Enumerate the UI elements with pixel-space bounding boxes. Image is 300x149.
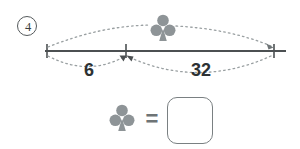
club-span-arrowhead — [267, 44, 274, 50]
answer-input-box[interactable] — [167, 97, 213, 144]
equals-sign: = — [142, 108, 162, 130]
club-suit-icon-equation — [110, 105, 135, 131]
worksheet-canvas: 4 6 — [0, 0, 300, 149]
segment-left-label: 6 — [78, 60, 100, 80]
segment-right-arrowhead — [127, 56, 134, 62]
segment-left-arrowhead — [120, 56, 127, 62]
club-span-arc-right — [176, 26, 271, 46]
segment-right-label: 32 — [184, 60, 218, 80]
club-span-arc-left — [48, 25, 150, 47]
club-suit-icon-top — [151, 15, 176, 41]
